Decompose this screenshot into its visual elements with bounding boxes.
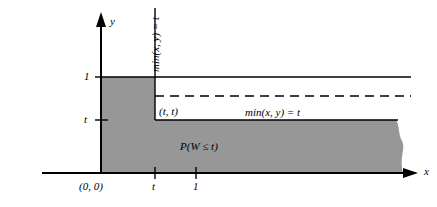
origin-label: (0, 0) (79, 181, 103, 192)
y-tick-label-1: 1 (84, 71, 90, 82)
x-axis-label: x (424, 166, 429, 177)
diagram-canvas (0, 0, 437, 207)
horizontal-line-annotation: min(x, y) = t (245, 107, 300, 118)
x-tick-label-1: 1 (193, 181, 199, 192)
y-axis-arrowhead (96, 12, 106, 27)
shaded-region-probability (101, 77, 403, 173)
corner-point-label: (t, t) (159, 106, 178, 117)
region-probability-label: P(W ≤ t) (180, 141, 218, 152)
x-tick-label-t: t (152, 181, 155, 192)
vertical-line-annotation: min(x, y) = t (150, 17, 161, 72)
y-tick-label-t: t (84, 114, 87, 125)
probability-diagram: y x 1 t (0, 0) t 1 min(x, y) = t min(x, … (0, 0, 437, 207)
y-axis-label: y (110, 16, 115, 27)
x-axis-arrowhead (403, 168, 418, 178)
